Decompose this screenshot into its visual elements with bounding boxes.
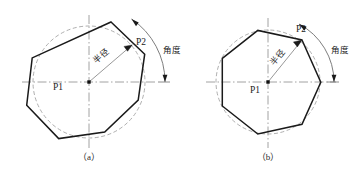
label-angle-b: 角度 [331, 45, 349, 55]
label-p2-a: P2 [136, 37, 146, 47]
label-p2-b: P2 [296, 24, 306, 34]
label-p1-b: P1 [250, 85, 260, 95]
caption-b: （b） [257, 152, 280, 162]
label-p1-a: P1 [53, 82, 63, 92]
figure-container: P1 P2 半径 角度 （a） P1 P2 半径 角度 （b） [0, 0, 361, 172]
caption-a: （a） [78, 152, 100, 162]
label-angle-a: 角度 [163, 45, 181, 55]
center-marker-b [266, 80, 269, 83]
polygon-construction-diagram: P1 P2 半径 角度 （a） P1 P2 半径 角度 （b） [0, 0, 361, 172]
center-marker-a [87, 80, 90, 83]
